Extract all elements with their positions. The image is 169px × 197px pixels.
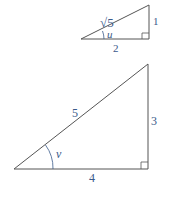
large-horizontal-leg-label: 4: [89, 171, 95, 185]
large-triangle-outline: [14, 64, 148, 169]
small-horizontal-leg-label: 2: [113, 42, 119, 54]
small-triangle: √5 1 2 u: [81, 5, 159, 54]
large-angle-arc: [46, 145, 54, 169]
small-triangle-outline: [81, 5, 149, 39]
large-hypotenuse-label: 5: [72, 106, 78, 120]
small-right-angle-marker: [142, 33, 149, 39]
large-angle-label: v: [56, 147, 62, 161]
large-triangle: 5 3 4 v: [14, 64, 157, 185]
small-vertical-leg-label: 1: [153, 15, 159, 27]
diagram-canvas: √5 1 2 u 5 3 4 v: [0, 0, 169, 197]
small-angle-arc: [103, 31, 105, 39]
large-right-angle-marker: [141, 162, 148, 169]
small-angle-label: u: [107, 28, 113, 40]
large-vertical-leg-label: 3: [151, 114, 157, 128]
